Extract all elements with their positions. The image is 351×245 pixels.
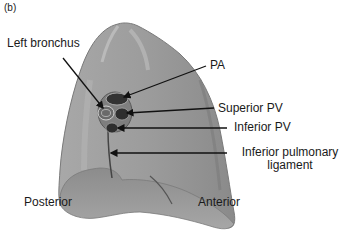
superior-pulmonary-vein bbox=[115, 108, 129, 120]
label-left-bronchus: Left bronchus bbox=[7, 37, 80, 50]
label-inferior-pv: Inferior PV bbox=[234, 121, 291, 134]
label-ligament-line2: ligament bbox=[232, 159, 348, 172]
label-pa: PA bbox=[210, 59, 225, 72]
label-anterior: Anterior bbox=[198, 196, 240, 209]
inferior-pulmonary-vein bbox=[106, 123, 118, 133]
label-superior-pv: Superior PV bbox=[218, 102, 283, 115]
pulmonary-artery bbox=[106, 93, 128, 105]
label-inferior-pulmonary-ligament: Inferior pulmonary ligament bbox=[232, 146, 348, 172]
panel-label: (b) bbox=[4, 2, 16, 13]
label-posterior: Posterior bbox=[24, 196, 72, 209]
left-bronchus bbox=[98, 106, 114, 120]
